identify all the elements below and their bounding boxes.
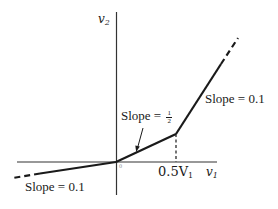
fraction-one-half: 12 (166, 110, 172, 124)
origin-mark: 0 (119, 164, 122, 169)
tick-label-main: 0.5V (158, 164, 188, 179)
slope-label-upper: Slope = 0.1 (205, 92, 265, 105)
x-axis-label: v1 (206, 166, 218, 180)
curve-segment-upper-dashed (221, 38, 238, 64)
y-axis-label: v2 (98, 13, 110, 27)
tick-label-sub: 1 (188, 171, 193, 180)
x-axis-label-sub: 1 (213, 171, 218, 180)
curve-segment-lower-solid (40, 162, 116, 174)
tick-label-half-v1: 0.5V1 (158, 165, 193, 180)
slope-label-lower: Slope = 0.1 (25, 180, 85, 193)
piecewise-linear-diagram: v2 v1 0.5V1 0 Slope = 0.1 Slope = 12 Slo… (0, 0, 278, 209)
curve-segment-lower-dashed (13, 174, 40, 179)
x-axis-label-main: v (206, 165, 213, 179)
curve-segment-middle (116, 134, 176, 162)
y-axis-label-main: v (98, 12, 105, 26)
y-axis-label-sub: 2 (105, 18, 110, 27)
origin-mark-text: 0 (119, 163, 122, 169)
slope-label-middle-text: Slope = (121, 108, 164, 123)
slope-label-middle: Slope = 12 (121, 109, 172, 124)
slope-arrow-line (138, 128, 144, 148)
fraction-denominator: 2 (166, 118, 172, 124)
